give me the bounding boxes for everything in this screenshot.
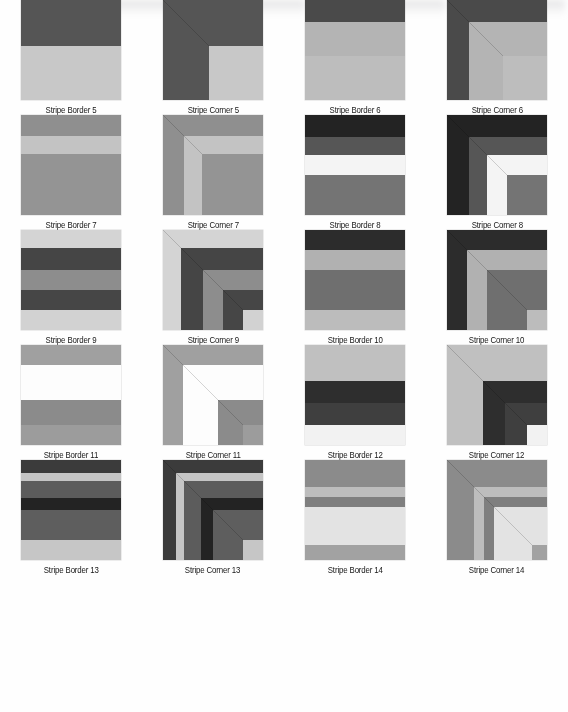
stripe-corner-swatch[interactable] (163, 460, 263, 560)
swatch-cell: Stripe Corner 10 (426, 230, 568, 345)
swatch-cell: Stripe Corner 9 (142, 230, 284, 345)
swatch-label: Stripe Border 11 (44, 450, 98, 460)
swatch-cell: Stripe Corner 12 (426, 345, 568, 460)
stripe-corner-swatch[interactable] (447, 345, 547, 445)
swatch-label: Stripe Corner 12 (469, 450, 525, 460)
swatch-label: Stripe Corner 7 (187, 220, 238, 230)
sample-sheet: Stripe Border 5Stripe Corner 5Stripe Bor… (0, 0, 568, 712)
stripe-border-swatch[interactable] (305, 345, 405, 445)
stripe-border-swatch[interactable] (21, 230, 121, 330)
stripe-corner-swatch[interactable] (447, 460, 547, 560)
swatch-label: Stripe Corner 11 (186, 450, 241, 460)
swatch-cell: Stripe Border 13 (0, 460, 142, 575)
stripe-border-swatch[interactable] (305, 460, 405, 560)
swatch-label: Stripe Border 13 (43, 565, 98, 575)
swatch-cell: Stripe Corner 11 (142, 345, 284, 460)
swatch-cell: Stripe Corner 7 (142, 115, 284, 230)
swatch-cell: Stripe Corner 8 (426, 115, 568, 230)
swatch-grid: Stripe Border 5Stripe Corner 5Stripe Bor… (0, 0, 568, 575)
stripe-border-swatch[interactable] (21, 345, 121, 445)
swatch-label: Stripe Border 10 (327, 335, 382, 345)
swatch-label: Stripe Border 6 (330, 105, 381, 115)
swatch-cell: Stripe Border 12 (284, 345, 426, 460)
swatch-cell: Stripe Corner 14 (426, 460, 568, 575)
swatch-label: Stripe Corner 13 (185, 565, 241, 575)
swatch-cell: Stripe Corner 6 (426, 0, 568, 115)
swatch-cell: Stripe Border 7 (0, 115, 142, 230)
swatch-label: Stripe Corner 5 (187, 105, 238, 115)
swatch-cell: Stripe Corner 5 (142, 0, 284, 115)
swatch-label: Stripe Corner 6 (471, 105, 522, 115)
swatch-cell: Stripe Corner 13 (142, 460, 284, 575)
swatch-label: Stripe Border 5 (46, 105, 97, 115)
swatch-cell: Stripe Border 5 (0, 0, 142, 115)
stripe-border-swatch[interactable] (305, 115, 405, 215)
swatch-cell: Stripe Border 6 (284, 0, 426, 115)
stripe-corner-swatch[interactable] (447, 230, 547, 330)
stripe-corner-swatch[interactable] (163, 230, 263, 330)
swatch-label: Stripe Corner 8 (471, 220, 522, 230)
stripe-corner-swatch[interactable] (447, 115, 547, 215)
stripe-corner-swatch[interactable] (447, 0, 547, 100)
swatch-label: Stripe Border 12 (327, 450, 382, 460)
stripe-border-swatch[interactable] (305, 230, 405, 330)
stripe-border-swatch[interactable] (305, 0, 405, 100)
swatch-label: Stripe Border 8 (330, 220, 381, 230)
swatch-label: Stripe Border 14 (327, 565, 382, 575)
swatch-label: Stripe Corner 14 (469, 565, 525, 575)
swatch-cell: Stripe Border 11 (0, 345, 142, 460)
swatch-label: Stripe Corner 9 (187, 335, 238, 345)
swatch-cell: Stripe Border 8 (284, 115, 426, 230)
swatch-cell: Stripe Border 10 (284, 230, 426, 345)
stripe-corner-swatch[interactable] (163, 115, 263, 215)
stripe-border-swatch[interactable] (21, 460, 121, 560)
swatch-cell: Stripe Border 9 (0, 230, 142, 345)
swatch-label: Stripe Corner 10 (469, 335, 525, 345)
stripe-border-swatch[interactable] (21, 0, 121, 100)
swatch-label: Stripe Border 9 (46, 335, 97, 345)
swatch-cell: Stripe Border 14 (284, 460, 426, 575)
swatch-label: Stripe Border 7 (46, 220, 97, 230)
stripe-corner-swatch[interactable] (163, 0, 263, 100)
stripe-corner-swatch[interactable] (163, 345, 263, 445)
stripe-border-swatch[interactable] (21, 115, 121, 215)
